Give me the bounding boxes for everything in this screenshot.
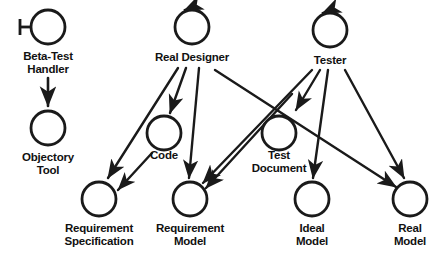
- node-requirement-specification[interactable]: [82, 182, 116, 216]
- label-tester: Tester: [300, 54, 360, 67]
- node-objectory-tool[interactable]: [31, 111, 65, 145]
- node-test-document[interactable]: [262, 116, 296, 150]
- edge-tester-to-ideal-model: [313, 70, 328, 178]
- label-requirement-specification: Requirement Specification: [54, 222, 144, 247]
- objectory-tool-circle: [31, 111, 65, 145]
- beta-test-handler-circle: [31, 10, 65, 44]
- node-tester[interactable]: [313, 12, 347, 47]
- label-test-document: Test Document: [244, 149, 314, 174]
- node-beta-test-handler[interactable]: [20, 10, 65, 44]
- edge-layer: [48, 68, 404, 190]
- label-objectory-tool: Objectory Tool: [3, 151, 93, 176]
- ideal-model-circle: [295, 182, 329, 216]
- code-circle: [147, 116, 181, 150]
- node-real-model[interactable]: [393, 182, 427, 216]
- label-real-model: Real Model: [375, 222, 445, 247]
- node-code[interactable]: [147, 116, 181, 150]
- real-designer-circle: [175, 10, 209, 44]
- node-layer: [20, 9, 427, 216]
- label-beta-test-handler: Beta-Test Handler: [3, 50, 93, 75]
- test-document-circle: [262, 116, 296, 150]
- label-requirement-model: Requirement Model: [145, 222, 235, 247]
- label-code: Code: [134, 149, 194, 162]
- node-requirement-model[interactable]: [173, 182, 207, 216]
- label-real-designer: Real Designer: [147, 51, 237, 64]
- edge-tester-to-real-model: [345, 70, 404, 178]
- requirement-specification-circle: [82, 182, 116, 216]
- node-ideal-model[interactable]: [295, 182, 329, 216]
- label-ideal-model: Ideal Model: [277, 222, 347, 247]
- edge-tester-to-test-document: [296, 70, 320, 110]
- requirement-model-circle: [173, 182, 207, 216]
- tester-circle: [313, 13, 347, 47]
- edge-real-designer-to-requirement-model: [189, 68, 199, 178]
- node-real-designer[interactable]: [175, 9, 209, 44]
- real-model-circle: [393, 182, 427, 216]
